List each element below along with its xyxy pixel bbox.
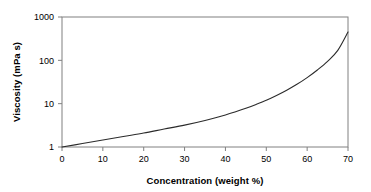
chart-canvas: 010203040506070 1101001000 Concentration…	[0, 0, 371, 192]
x-tick-label: 60	[302, 154, 312, 164]
y-axis-title: Viscosity (mPa s)	[11, 42, 22, 122]
viscosity-concentration-chart: 010203040506070 1101001000 Concentration…	[0, 0, 371, 192]
y-tick-label: 100	[39, 56, 54, 66]
x-tick-label: 30	[180, 154, 190, 164]
x-tick-label: 10	[98, 154, 108, 164]
x-tick-label: 0	[59, 154, 64, 164]
x-axis-title: Concentration (weight %)	[147, 175, 264, 186]
x-tick-label: 40	[220, 154, 230, 164]
y-tick-label: 1	[49, 142, 54, 152]
y-tick-label: 1000	[34, 12, 54, 22]
x-tick-label: 70	[343, 154, 353, 164]
y-tick-label: 10	[44, 99, 54, 109]
x-tick-label: 50	[261, 154, 271, 164]
x-tick-label: 20	[139, 154, 149, 164]
